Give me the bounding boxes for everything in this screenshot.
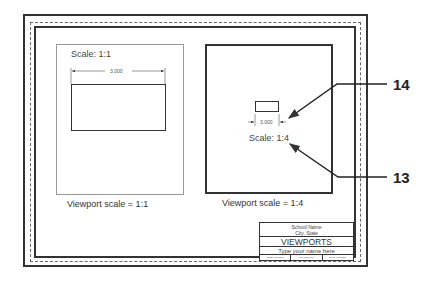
title-block-name-field[interactable]: Type your name here bbox=[260, 247, 353, 255]
footer-cell-submissions: SUBMISSIONS bbox=[260, 255, 291, 261]
callout-14: 14 bbox=[393, 76, 410, 93]
footer-cell-folder: DWG.FOLDER bbox=[323, 255, 353, 261]
annotation-overlay bbox=[0, 0, 434, 283]
title-block-footer: SUBMISSIONS SCALE:FULL DWG.FOLDER bbox=[260, 255, 353, 261]
title-block-title: VIEWPORTS bbox=[260, 237, 353, 247]
callout-13: 13 bbox=[393, 169, 410, 186]
right-dimension-text: 3.000 bbox=[260, 119, 273, 125]
leader-13 bbox=[290, 144, 387, 177]
title-block-school: School Name City, State bbox=[260, 223, 353, 237]
title-block: School Name City, State VIEWPORTS Type y… bbox=[259, 222, 354, 261]
footer-cell-scale: SCALE:FULL bbox=[291, 255, 322, 261]
left-dimension-text: 3.000 bbox=[108, 68, 125, 74]
leader-14 bbox=[289, 84, 387, 118]
city-state: City, State bbox=[260, 230, 353, 236]
